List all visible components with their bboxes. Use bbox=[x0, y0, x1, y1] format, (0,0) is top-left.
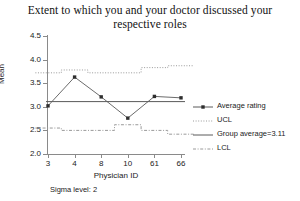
data-point-marker bbox=[126, 116, 129, 119]
ucl-line bbox=[35, 66, 193, 73]
legend-item[interactable]: LCL bbox=[192, 140, 300, 154]
legend-item-label: LCL bbox=[214, 143, 231, 152]
legend-key-dotted-icon bbox=[192, 113, 214, 125]
legend-item-label: UCL bbox=[214, 115, 232, 124]
data-point-marker bbox=[179, 96, 182, 99]
data-point-marker bbox=[153, 95, 156, 98]
legend-item[interactable]: UCL bbox=[192, 112, 300, 126]
legend-item[interactable]: Group average=3.11 bbox=[192, 126, 300, 140]
data-point-marker bbox=[46, 104, 49, 107]
legend-item-label: Group average=3.11 bbox=[214, 129, 285, 138]
legend-key-solid-icon bbox=[192, 127, 214, 139]
legend-key-dashdot-icon bbox=[192, 141, 214, 153]
chart-page: Extent to which you and your doctor disc… bbox=[0, 0, 300, 201]
legend-key-line-marker-icon bbox=[192, 99, 214, 111]
legend-item-label: Average rating bbox=[214, 101, 266, 110]
lcl-line bbox=[35, 125, 193, 134]
chart-legend: Average ratingUCLGroup average=3.11LCL bbox=[192, 98, 300, 154]
average-rating-line bbox=[48, 77, 181, 118]
data-point-marker bbox=[73, 75, 76, 78]
data-point-marker bbox=[100, 95, 103, 98]
legend-item[interactable]: Average rating bbox=[192, 98, 300, 112]
